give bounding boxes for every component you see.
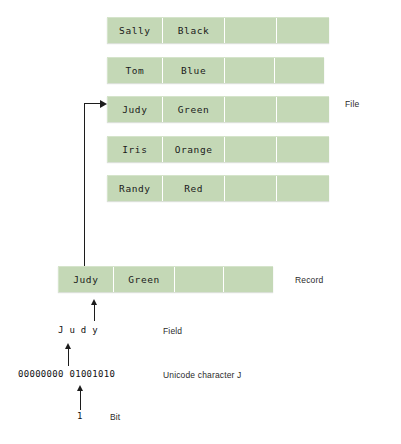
character-to-field-arrowhead bbox=[65, 343, 71, 349]
bit-to-character-arrowhead bbox=[77, 385, 83, 391]
row-cell-last: Black bbox=[163, 18, 226, 43]
record-cell-first: Judy bbox=[59, 267, 114, 292]
row-cell-3 bbox=[225, 18, 277, 43]
row-cell-last: Blue bbox=[163, 58, 226, 83]
row-cell-3 bbox=[225, 58, 275, 83]
bit-text: 1 bbox=[77, 411, 83, 421]
row-cell-4 bbox=[277, 97, 329, 122]
character-to-field-connector bbox=[68, 348, 69, 366]
field-text: J u d y bbox=[58, 325, 98, 335]
field-label: Field bbox=[163, 326, 182, 336]
row-cell-3 bbox=[225, 137, 277, 162]
row-cell-last: Red bbox=[163, 176, 226, 201]
row-cell-first: Tom bbox=[108, 58, 163, 83]
bit-label: Bit bbox=[110, 412, 120, 422]
row-cell-first: Randy bbox=[108, 176, 163, 201]
file-row: Sally Black bbox=[107, 17, 329, 43]
row-cell-last: Green bbox=[163, 97, 226, 122]
file-label: File bbox=[345, 99, 359, 109]
file-row: Randy Red bbox=[107, 175, 329, 201]
row-cell-first: Iris bbox=[108, 137, 163, 162]
field-to-record-arrowhead bbox=[91, 299, 97, 305]
file-row-highlighted: Judy Green bbox=[107, 96, 329, 122]
row-cell-last: Orange bbox=[163, 137, 226, 162]
row-cell-first: Judy bbox=[108, 97, 163, 122]
file-row: Iris Orange bbox=[107, 136, 329, 162]
diagram-canvas: Sally Black Tom Blue Judy Green Iris Ora… bbox=[0, 0, 401, 444]
row-cell-first: Sally bbox=[108, 18, 163, 43]
record-label: Record bbox=[295, 275, 323, 285]
bit-to-character-connector bbox=[80, 390, 81, 410]
record-to-file-connector-horizontal bbox=[84, 103, 101, 104]
record-cell-3 bbox=[175, 267, 224, 292]
row-cell-3 bbox=[225, 176, 277, 201]
record-row: Judy Green bbox=[58, 266, 273, 292]
row-cell-4 bbox=[277, 137, 329, 162]
record-to-file-arrowhead bbox=[100, 100, 107, 108]
row-cell-4 bbox=[275, 58, 324, 83]
record-cell-4 bbox=[224, 267, 273, 292]
field-to-record-connector bbox=[94, 303, 95, 321]
record-cell-last: Green bbox=[114, 267, 176, 292]
row-cell-4 bbox=[277, 176, 329, 201]
row-cell-3 bbox=[225, 97, 277, 122]
record-to-file-connector-vertical bbox=[84, 103, 85, 266]
file-row: Tom Blue bbox=[107, 57, 324, 83]
character-label: Unicode character J bbox=[163, 370, 241, 380]
character-binary-text: 00000000 01001010 bbox=[18, 369, 115, 379]
row-cell-4 bbox=[277, 18, 329, 43]
